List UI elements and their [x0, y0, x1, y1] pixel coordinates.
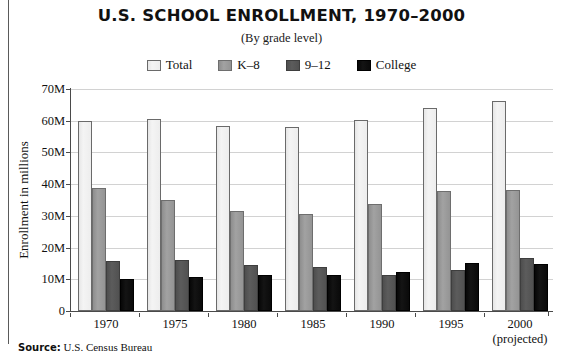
chart-legend: TotalK–89–12College [0, 57, 563, 73]
bar-college-1980[interactable] [258, 275, 272, 311]
bar-college-1970[interactable] [120, 279, 134, 311]
y-tick-label: 0 [59, 304, 65, 319]
x-tick-mark [346, 313, 347, 317]
bar-k8-1980[interactable] [230, 211, 244, 311]
bar-k8-1995[interactable] [437, 191, 451, 311]
bar-group-1970: 1970 [78, 89, 134, 311]
x-tick-year: 1985 [301, 317, 326, 331]
bar-k8-1970[interactable] [92, 188, 106, 311]
bar-group-1990: 1990 [354, 89, 410, 311]
x-tick-year: 1980 [232, 317, 257, 331]
y-tick-label: 10M [41, 272, 65, 287]
x-tick-label-1990: 1990 [354, 317, 410, 332]
legend-item-total[interactable]: Total [147, 57, 193, 73]
bar-total-1970[interactable] [78, 121, 92, 311]
bar-group-1975: 1975 [147, 89, 203, 311]
bar-college-1985[interactable] [327, 275, 341, 311]
bar-group-1980: 1980 [216, 89, 272, 311]
x-axis-line [70, 311, 553, 312]
y-tick-label: 70M [41, 82, 65, 97]
legend-label-college: College [376, 57, 416, 73]
bar-group-1995: 1995 [423, 89, 479, 311]
x-tick-label-2000: 2000(projected) [492, 317, 548, 346]
bar-total-1985[interactable] [285, 127, 299, 311]
bar-group-1985: 1985 [285, 89, 341, 311]
x-tick-mark [548, 312, 549, 316]
bars [354, 89, 410, 311]
bar-k8-1985[interactable] [299, 214, 313, 311]
bars [492, 89, 548, 311]
x-tick-label-1975: 1975 [147, 317, 203, 332]
x-tick-year: 1975 [163, 317, 188, 331]
bar-hs-2000[interactable] [520, 258, 534, 311]
bar-hs-1970[interactable] [106, 261, 120, 311]
source-text: U.S. Census Bureau [64, 341, 153, 353]
y-tick-mark [66, 152, 70, 153]
bar-total-1980[interactable] [216, 126, 230, 311]
x-tick-mark [139, 313, 140, 317]
x-tick-mark [484, 313, 485, 317]
y-tick-mark [66, 311, 70, 312]
y-tick-mark [66, 248, 70, 249]
bar-total-1995[interactable] [423, 108, 437, 311]
x-tick-sublabel: (projected) [492, 332, 548, 346]
bar-college-1995[interactable] [465, 263, 479, 311]
y-tick-label: 40M [41, 177, 65, 192]
y-tick-mark [66, 184, 70, 185]
y-tick-label: 20M [41, 240, 65, 255]
legend-swatch-college-icon [357, 60, 371, 71]
bar-total-1975[interactable] [147, 119, 161, 311]
bar-hs-1980[interactable] [244, 265, 258, 311]
legend-item-college[interactable]: College [357, 57, 416, 73]
x-tick-year: 1970 [94, 317, 119, 331]
bar-college-2000[interactable] [534, 264, 548, 311]
y-tick-mark [66, 216, 70, 217]
x-tick-mark [277, 313, 278, 317]
legend-swatch-total-icon [147, 60, 161, 71]
bars [78, 89, 134, 311]
bar-group-2000: 2000(projected) [492, 89, 548, 311]
y-tick-label: 60M [41, 113, 65, 128]
bars [285, 89, 341, 311]
x-tick-label-1970: 1970 [78, 317, 134, 332]
left-edge-rule [8, 0, 9, 344]
y-tick-mark [66, 121, 70, 122]
source-label: Source: [18, 342, 61, 353]
legend-swatch-hs-icon [286, 60, 300, 71]
x-tick-year: 1995 [439, 317, 464, 331]
chart-figure: U.S. SCHOOL ENROLLMENT, 1970–2000 (By gr… [0, 0, 563, 356]
legend-swatch-k8-icon [218, 60, 232, 71]
legend-item-hs[interactable]: 9–12 [286, 57, 331, 73]
bar-k8-1990[interactable] [368, 204, 382, 311]
y-tick-label: 30M [41, 208, 65, 223]
y-axis-label: Enrollment in millions [16, 141, 32, 259]
x-tick-year: 1990 [370, 317, 395, 331]
plot-area: Enrollment in millions 010M20M30M40M50M6… [70, 88, 553, 312]
bar-hs-1975[interactable] [175, 260, 189, 311]
legend-label-hs: 9–12 [305, 57, 331, 73]
x-tick-year: 2000 [508, 317, 533, 331]
bar-total-1990[interactable] [354, 120, 368, 311]
x-tick-mark [415, 313, 416, 317]
bars [216, 89, 272, 311]
bar-k8-2000[interactable] [506, 190, 520, 311]
x-tick-mark [208, 313, 209, 317]
x-tick-label-1980: 1980 [216, 317, 272, 332]
x-tick-label-1985: 1985 [285, 317, 341, 332]
x-tick-label-1995: 1995 [423, 317, 479, 332]
bar-hs-1995[interactable] [451, 270, 465, 311]
bar-hs-1990[interactable] [382, 275, 396, 311]
y-tick-mark [66, 89, 70, 90]
bars [147, 89, 203, 311]
y-tick-mark [66, 279, 70, 280]
bar-college-1975[interactable] [189, 277, 203, 311]
x-tick-mark [70, 313, 71, 317]
source-note: Source: U.S. Census Bureau [18, 341, 152, 353]
bar-total-2000[interactable] [492, 101, 506, 311]
bar-hs-1985[interactable] [313, 267, 327, 311]
legend-item-k8[interactable]: K–8 [218, 57, 259, 73]
bar-college-1990[interactable] [396, 272, 410, 311]
legend-label-total: Total [166, 57, 193, 73]
y-tick-label: 50M [41, 145, 65, 160]
bar-k8-1975[interactable] [161, 200, 175, 311]
